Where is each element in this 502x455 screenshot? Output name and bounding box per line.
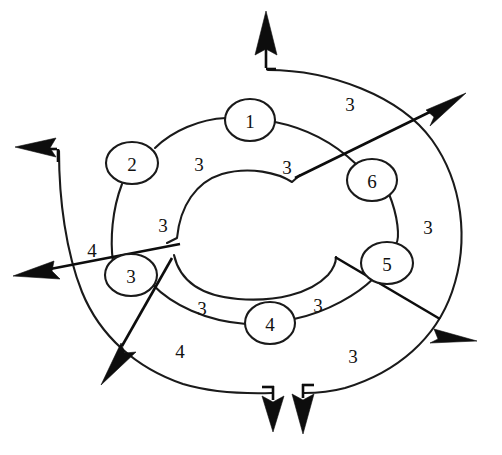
edge-label-mid-bottom-left: 3 [197,298,207,319]
node-6-label: 6 [367,171,377,192]
arc-outer-left [59,151,272,393]
edge-label-outer-bottom-left-4: 4 [175,341,185,362]
edge-label-outer-top-right: 3 [345,94,355,115]
node-5[interactable]: 5 [361,242,413,284]
arc-node6-node5 [389,194,398,244]
node-6[interactable]: 6 [347,159,397,201]
node-3-label: 3 [126,266,136,287]
arc-node2-node1 [155,118,226,148]
arrow-top-up [255,11,277,69]
node-4-label: 4 [265,314,275,335]
arc-inner-bottom [174,255,336,300]
arrow-bottom-outer [292,384,314,434]
arc-inner-top [167,170,300,243]
node-1-label: 1 [245,111,255,132]
diagram-canvas: 1 2 3 4 5 6 3 3 3 3 3 4 3 3 [0,0,502,455]
edge-label-mid-bottom-right: 3 [313,295,323,316]
edge-label-inner-top-right: 3 [282,157,292,178]
arc-node2-node3 [112,184,122,262]
node-2-label: 2 [127,154,137,175]
arc-node4-node5 [294,278,374,319]
node-2[interactable]: 2 [106,142,158,184]
node-4[interactable]: 4 [245,302,295,344]
edge-label-outer-bottom-right: 3 [348,346,358,367]
node-3[interactable]: 3 [105,254,157,296]
edge-label-inner-left: 3 [158,215,168,236]
edge-label-outer-left-4: 4 [87,240,97,261]
node-1[interactable]: 1 [225,99,275,141]
circular-graph-diagram: 1 2 3 4 5 6 3 3 3 3 3 4 3 3 [0,0,502,455]
node-5-label: 5 [382,254,392,275]
edge-label-outer-right: 3 [423,217,433,238]
arrow-upper-left [15,138,58,162]
edge-label-inner-top-left: 3 [194,154,204,175]
